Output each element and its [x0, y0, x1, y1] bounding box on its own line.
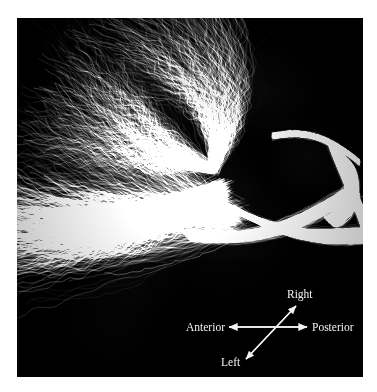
- orientation-label-right: Right: [287, 288, 313, 300]
- tractography-image-panel: Right Left Anterior Posterior: [17, 18, 363, 377]
- orientation-label-left: Left: [221, 356, 240, 368]
- orientation-label-anterior: Anterior: [186, 321, 225, 333]
- orientation-label-posterior: Posterior: [312, 321, 354, 333]
- figure-root: Right Left Anterior Posterior: [0, 0, 377, 392]
